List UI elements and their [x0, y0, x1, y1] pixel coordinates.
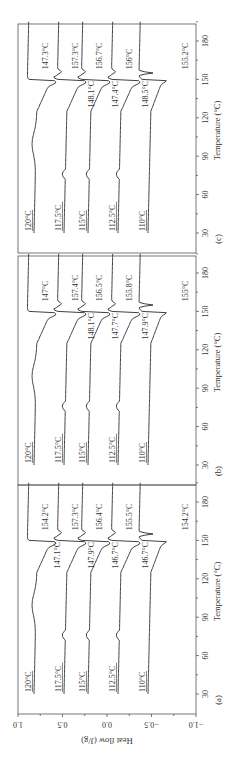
peak-label-low: 146.7°C: [111, 542, 120, 569]
dsc-curve-112.5: [108, 483, 140, 694]
peak-label-low: 147.9°C: [141, 313, 150, 340]
series-label: 117.5°C: [54, 437, 63, 463]
x-tick-label: 150: [201, 73, 210, 85]
series-label: 110°C: [138, 443, 147, 463]
dsc-curve-117.5: [54, 254, 86, 465]
y-tick-label: 0.0: [102, 720, 112, 729]
x-tick-label: 30: [201, 690, 210, 698]
peak-label-high: 155.2°C: [181, 43, 190, 70]
peak-label-low: 146.7°C: [141, 542, 150, 569]
dsc-curve-115: [78, 22, 110, 233]
series-label: 115°C: [78, 443, 87, 463]
x-tick-label: 120: [201, 573, 210, 585]
peak-label-high: 156°C: [125, 49, 134, 70]
series-label: 110°C: [138, 211, 147, 231]
series-label: 110°C: [138, 672, 147, 692]
peak-label-high: 157.4°C: [71, 275, 80, 302]
x-tick-label: 120: [201, 112, 210, 124]
y-tick-label: 0.5: [58, 720, 68, 729]
x-tick-label: 120: [201, 344, 210, 356]
series-label: 115°C: [78, 672, 87, 692]
dsc-curve-112.5: [108, 22, 140, 233]
x-tick-label: 180: [201, 496, 210, 508]
series-label: 112.5°C: [108, 205, 117, 231]
x-tick-label: 150: [201, 305, 210, 317]
series-label: 115°C: [78, 211, 87, 231]
peak-label-low: 147.4°C: [111, 81, 120, 108]
dsc-figure: 306090120150180Temperature (°C)(a)120°C1…: [0, 0, 243, 777]
peak-label-high: 155.8°C: [125, 275, 134, 302]
x-tick-label: 90: [201, 152, 210, 160]
dsc-curve-110: [139, 22, 166, 233]
peak-label-high: 156.5°C: [95, 275, 104, 302]
panel-label: (b): [213, 466, 223, 476]
series-label: 117.5°C: [54, 205, 63, 231]
x-axis-title: Temperature (°C): [212, 332, 222, 392]
x-axis-title: Temperature (°C): [212, 561, 222, 621]
dsc-curve-110: [139, 254, 166, 465]
peak-label-high: 157.3°C: [71, 504, 80, 531]
peak-label-high: 156.4°C: [95, 504, 104, 531]
y-tick-label: −0.5: [144, 720, 159, 729]
series-label: 112.5°C: [108, 437, 117, 463]
dsc-curve-115: [78, 254, 110, 465]
x-tick-label: 90: [201, 384, 210, 392]
dsc-curve-117.5: [54, 483, 86, 694]
panel-label: (a): [213, 695, 223, 705]
dsc-curve-115: [78, 483, 110, 694]
series-label: 117.5°C: [54, 666, 63, 692]
panel-label: (c): [213, 234, 223, 244]
dsc-curve-110: [139, 483, 166, 694]
series-label: 112.5°C: [108, 666, 117, 692]
peak-label-high: 154.2°C: [41, 504, 50, 531]
dsc-curve-117.5: [54, 22, 86, 233]
peak-label-high: 156.7°C: [95, 43, 104, 70]
peak-label-high: 147.3°C: [41, 43, 50, 70]
series-label: 120°C: [24, 210, 33, 231]
x-tick-label: 30: [201, 229, 210, 237]
peak-label-low: 148.5°C: [141, 81, 150, 108]
x-tick-label: 30: [201, 461, 210, 469]
y-tick-label: 1.0: [13, 720, 23, 729]
x-tick-label: 60: [201, 423, 210, 431]
series-label: 120°C: [24, 442, 33, 463]
peak-label-high: 155.5°C: [125, 504, 134, 531]
dsc-chart-svg: 306090120150180Temperature (°C)(a)120°C1…: [0, 0, 243, 777]
peak-label-high: 154.2°C: [181, 504, 190, 531]
y-tick-label: −1.0: [189, 720, 204, 729]
x-tick-label: 150: [201, 534, 210, 546]
peak-label-high: 147°C: [41, 281, 50, 302]
x-tick-label: 90: [201, 613, 210, 621]
x-tick-label: 60: [201, 652, 210, 660]
y-axis-title: Heat flow (J/g): [81, 736, 133, 746]
x-tick-label: 180: [201, 267, 210, 279]
x-axis-title: Temperature (°C): [212, 100, 222, 160]
series-label: 120°C: [24, 671, 33, 692]
peak-label-high: 157.3°C: [71, 43, 80, 70]
peak-label-high: 155°C: [181, 281, 190, 302]
peak-label-low: 147.1°C: [53, 542, 62, 569]
x-tick-label: 180: [201, 35, 210, 47]
peak-label-low: 147.7°C: [111, 313, 120, 340]
dsc-curve-112.5: [108, 254, 140, 465]
x-tick-label: 60: [201, 191, 210, 199]
